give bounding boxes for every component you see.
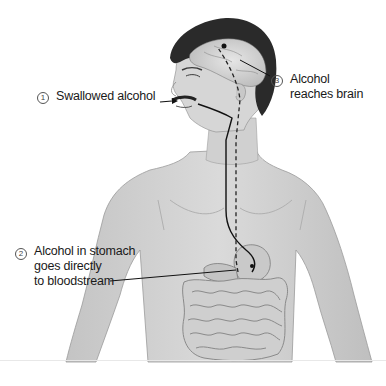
floor-line: [0, 360, 386, 361]
step-2-label-line-1: Alcohol in stomach: [34, 244, 135, 259]
step-3-number-badge: 3: [271, 73, 283, 87]
step-3-label: Alcohol reaches brain: [290, 72, 363, 102]
step-2-number-badge: 2: [15, 246, 27, 260]
step-2-label-line-3: to bloodstream: [34, 274, 135, 289]
head: [170, 18, 276, 132]
intestines: [183, 278, 288, 361]
step-1-label: Swallowed alcohol: [56, 89, 155, 104]
step-1-label-line-1: Swallowed alcohol: [56, 89, 155, 104]
step-1-number-badge: 1: [37, 90, 49, 104]
step-2-label-line-2: goes directly: [34, 259, 135, 274]
step-2-number: 2: [15, 248, 27, 260]
step-3-number: 3: [271, 75, 283, 87]
step-1-number: 1: [37, 92, 49, 104]
stomach-entry-dot: [250, 264, 254, 268]
body-illustration: [0, 0, 386, 386]
step-3-label-line-2: reaches brain: [290, 87, 363, 102]
brain-target-dot: [222, 44, 227, 49]
step-3-label-line-1: Alcohol: [290, 72, 363, 87]
step-2-label: Alcohol in stomach goes directly to bloo…: [34, 244, 135, 289]
diagram-canvas: 1 Swallowed alcohol 2 Alcohol in stomach…: [0, 0, 386, 386]
